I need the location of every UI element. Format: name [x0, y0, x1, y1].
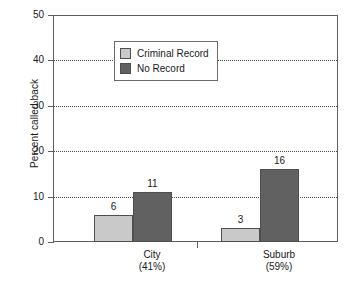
y-tick-label-50: 50 — [18, 10, 44, 20]
legend-item-no-record: No Record — [120, 61, 209, 76]
bar-value-city-criminal-record: 6 — [94, 202, 133, 212]
bar-suburb-criminal-record — [221, 228, 260, 242]
axis-top-line — [54, 15, 337, 16]
bar-value-city-no-record: 11 — [133, 179, 172, 189]
y-tick-label-40: 40 — [18, 55, 44, 65]
y-tick-40 — [48, 60, 54, 61]
plot-area: 50 40 30 20 10 0 6 11 3 16 Criminal Reco… — [53, 15, 338, 242]
bar-city-criminal-record — [94, 215, 133, 242]
y-tick-label-10: 10 — [18, 192, 44, 202]
legend-swatch-no-record-icon — [120, 63, 131, 74]
x-category-name-city: City — [143, 249, 160, 260]
legend-swatch-criminal-record-icon — [120, 48, 131, 59]
x-category-name-suburb: Suburb — [263, 249, 295, 260]
gridline-20 — [54, 151, 337, 152]
x-tick-group-divider — [197, 242, 198, 248]
y-tick-0 — [48, 242, 54, 243]
y-tick-label-0: 0 — [18, 237, 44, 247]
x-category-percent-city: (41%) — [112, 261, 192, 273]
y-tick-label-20: 20 — [18, 146, 44, 156]
y-tick-30 — [48, 106, 54, 107]
bar-suburb-no-record — [260, 169, 299, 242]
y-tick-label-30: 30 — [18, 101, 44, 111]
legend-item-criminal-record: Criminal Record — [120, 46, 209, 61]
y-tick-10 — [48, 197, 54, 198]
x-category-label-city: City (41%) — [112, 249, 192, 273]
legend-label-criminal-record: Criminal Record — [137, 48, 209, 59]
x-category-percent-suburb: (59%) — [239, 261, 319, 273]
y-tick-50 — [48, 15, 54, 16]
legend: Criminal Record No Record — [114, 41, 218, 81]
bar-city-no-record — [133, 192, 172, 242]
gridline-30 — [54, 106, 337, 107]
x-category-label-suburb: Suburb (59%) — [239, 249, 319, 273]
legend-label-no-record: No Record — [137, 63, 185, 74]
bar-value-suburb-no-record: 16 — [260, 156, 299, 166]
bar-value-suburb-criminal-record: 3 — [221, 215, 260, 225]
y-tick-20 — [48, 151, 54, 152]
bar-chart: Percent called back 50 40 30 20 10 0 6 — [0, 0, 350, 289]
